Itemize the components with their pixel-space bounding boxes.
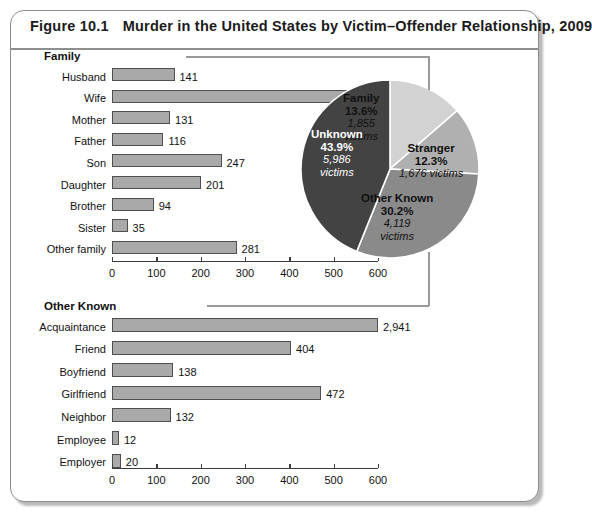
bar-father[interactable] — [112, 133, 163, 146]
x-axis-tick-label: 100 — [136, 267, 176, 279]
x-axis-tick — [156, 257, 157, 261]
bar-girlfriend[interactable] — [112, 386, 321, 400]
pie-label-unknown: Unknown43.9%5,986victims — [311, 128, 363, 178]
pie-slice-percent: 30.2% — [361, 205, 433, 218]
bracket-family-horizontal — [186, 56, 429, 58]
figure-title-text: Murder in the United States by Victim–Of… — [123, 18, 592, 34]
bar-mother[interactable] — [112, 111, 170, 124]
bar-category-label: Friend — [22, 343, 106, 355]
pie-slice-name: Family — [343, 92, 379, 105]
bracket-other-known-vertical — [428, 252, 430, 306]
bar-acquaintance[interactable] — [112, 318, 378, 332]
bar-sister[interactable] — [112, 219, 128, 232]
x-axis-tick — [112, 257, 113, 261]
bar-friend[interactable] — [112, 341, 291, 355]
bar-value-label: 116 — [168, 135, 186, 147]
x-axis-tick-label: 600 — [358, 474, 398, 486]
x-axis-tick — [378, 464, 379, 468]
bar-category-label: Girlfriend — [22, 388, 106, 400]
bar-other-family[interactable] — [112, 241, 237, 254]
pie-slice-victims-suffix: victims — [311, 166, 363, 179]
bar-value-label: 472 — [326, 388, 344, 400]
bar-neighbor[interactable] — [112, 408, 171, 422]
pie-slice-victims: 1,676 victims — [399, 167, 463, 180]
pie-slice-name: Stranger — [399, 142, 463, 155]
x-axis-tick-label: 300 — [225, 267, 265, 279]
figure-title: Figure 10.1Murder in the United States b… — [30, 18, 592, 34]
bar-category-label: Other family — [22, 243, 106, 255]
bar-category-label: Boyfriend — [22, 366, 106, 378]
x-axis-tick-label: 500 — [314, 267, 354, 279]
x-axis-tick-label: 500 — [314, 474, 354, 486]
x-axis-tick-label: 300 — [225, 474, 265, 486]
bar-value-label: 12 — [124, 434, 136, 446]
x-axis-tick — [289, 257, 290, 261]
pie-label-stranger: Stranger12.3%1,676 victims — [399, 142, 463, 180]
x-axis-tick-label: 0 — [92, 267, 132, 279]
bar-daughter[interactable] — [112, 176, 201, 189]
bar-category-label: Son — [22, 157, 106, 169]
x-axis-tick-label: 400 — [269, 267, 309, 279]
bar-category-label: Brother — [22, 200, 106, 212]
x-axis-tick — [334, 464, 335, 468]
bar-category-label: Sister — [22, 222, 106, 234]
bar-category-label: Employee — [22, 434, 106, 446]
bar-brother[interactable] — [112, 198, 154, 211]
x-axis-line — [112, 468, 378, 469]
pie-label-other-known: Other Known30.2%4,119victims — [361, 192, 433, 242]
bar-category-label: Neighbor — [22, 411, 106, 423]
bar-value-label: 20 — [126, 456, 138, 468]
bar-value-label: 141 — [180, 71, 198, 83]
figure-number: Figure 10.1 — [30, 18, 109, 34]
bar-category-label: Husband — [22, 71, 106, 83]
x-axis-tick — [245, 464, 246, 468]
bracket-family-vertical — [428, 56, 430, 90]
bar-value-label: 201 — [206, 179, 224, 191]
x-axis-tick-label: 400 — [269, 474, 309, 486]
relationship-pie-chart: Family13.6%1,855victimsStranger12.3%1,67… — [301, 80, 479, 258]
pie-slice-name: Other Known — [361, 192, 433, 205]
pie-slice-name: Unknown — [311, 128, 363, 141]
pie-slice-percent: 43.9% — [311, 141, 363, 154]
bar-value-label: 35 — [133, 222, 145, 234]
pie-slice-percent: 13.6% — [343, 105, 379, 118]
bar-husband[interactable] — [112, 68, 175, 81]
bar-category-label: Father — [22, 135, 106, 147]
bar-value-label: 2,941 — [383, 321, 411, 333]
bar-employee[interactable] — [112, 431, 119, 445]
x-axis-tick — [245, 257, 246, 261]
bar-son[interactable] — [112, 154, 222, 167]
x-axis-tick-label: 200 — [181, 267, 221, 279]
bar-category-label: Daughter — [22, 179, 106, 191]
x-axis-tick-label: 100 — [136, 474, 176, 486]
bar-category-label: Employer — [22, 456, 106, 468]
x-axis-tick — [112, 464, 113, 468]
pie-slice-percent: 12.3% — [399, 155, 463, 168]
bar-employer[interactable] — [112, 454, 121, 468]
bar-value-label: 281 — [242, 243, 260, 255]
x-axis-line — [112, 261, 378, 262]
x-axis-tick — [201, 464, 202, 468]
x-axis-tick-label: 200 — [181, 474, 221, 486]
bar-category-label: Acquaintance — [22, 321, 106, 333]
x-axis-tick — [201, 257, 202, 261]
pie-slice-victims-suffix: victims — [361, 230, 433, 243]
bar-value-label: 138 — [178, 366, 196, 378]
pie-slice-victims: 5,986 — [311, 153, 363, 166]
pie-slice-victims: 4,119 — [361, 217, 433, 230]
bar-value-label: 132 — [176, 411, 194, 423]
section-label-other-known: Other Known — [44, 300, 134, 312]
bar-value-label: 247 — [227, 157, 245, 169]
x-axis-tick — [289, 464, 290, 468]
section-label-family: Family — [44, 50, 134, 62]
bar-boyfriend[interactable] — [112, 363, 173, 377]
x-axis-tick — [156, 464, 157, 468]
bar-value-label: 404 — [296, 343, 314, 355]
other-known-bar-chart: Other KnownAcquaintance2,941Friend404Boy… — [22, 300, 542, 498]
bar-category-label: Mother — [22, 114, 106, 126]
bracket-other-known-horizontal — [207, 305, 429, 307]
bar-value-label: 94 — [159, 200, 171, 212]
bar-category-label: Wife — [22, 92, 106, 104]
x-axis-tick-label: 600 — [358, 267, 398, 279]
